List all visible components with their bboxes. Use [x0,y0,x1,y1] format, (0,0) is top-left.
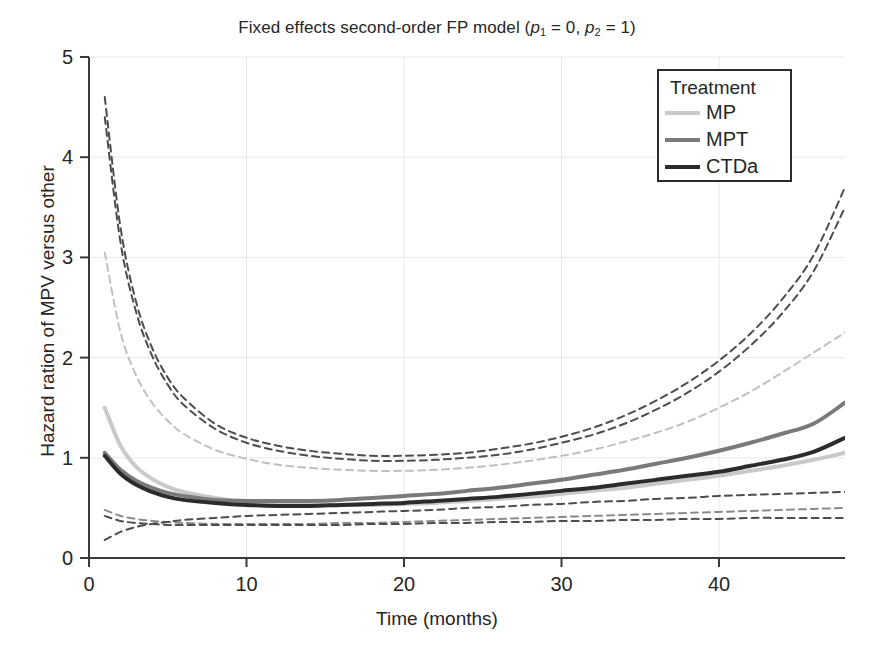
series-line-mp-upper-ci [105,252,845,471]
x-axis-tick-label: 30 [550,573,572,595]
x-axis-tick-label: 0 [83,573,94,595]
y-axis-tick-label: 0 [62,547,73,569]
y-axis-tick-label: 5 [62,46,73,68]
legend-label-mpt[interactable]: MPT [706,128,748,150]
legend-title: Treatment [670,77,757,98]
chart-title-p2-subscript: 2 [595,26,601,38]
y-axis-tick-label: 2 [62,347,73,369]
chart-title: Fixed effects second-order FP model (p1 … [0,18,874,38]
x-axis-label: Time (months) [0,608,874,630]
x-axis-tick-label: 40 [708,573,730,595]
legend[interactable]: TreatmentMPMPTCTDa [658,70,791,181]
figure-container: Fixed effects second-order FP model (p1 … [0,0,874,650]
y-axis-tick-label: 3 [62,246,73,268]
y-axis-tick-label: 4 [62,146,73,168]
legend-label-mp[interactable]: MP [706,101,736,123]
chart-title-p2-value: = 1) [601,18,636,37]
series-line-mp-lower-ci [105,508,845,524]
plot-area: 012345010203040 TreatmentMPMPTCTDa [0,0,874,650]
y-axis-tick-label: 1 [62,447,73,469]
series-line-mpt [105,403,845,501]
tick-labels: 012345010203040 [62,46,730,595]
legend-label-ctda[interactable]: CTDa [706,155,759,177]
x-axis-tick-label: 20 [393,573,415,595]
chart-title-p1-subscript: 1 [540,26,546,38]
chart-title-p1-value: = 0, [546,18,585,37]
chart-title-p1-symbol: p [530,18,540,37]
chart-title-p2-symbol: p [585,18,595,37]
chart-title-lead: Fixed effects second-order FP model ( [238,18,530,37]
x-axis-tick-label: 10 [235,573,257,595]
